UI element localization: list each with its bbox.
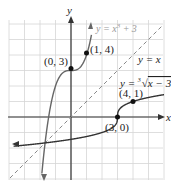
label-0-3: (0, 3) — [44, 55, 68, 68]
cube-root-equation: y = 3√x − 3 — [119, 77, 171, 89]
y-axis-label: y — [66, 4, 72, 16]
point-3-0 — [115, 115, 120, 120]
identity-equation: y = x — [137, 53, 161, 65]
label-3-0: (3, 0) — [105, 121, 129, 134]
cube-root-curve — [14, 95, 164, 147]
cubic-down-arrow-icon — [41, 174, 47, 181]
label-1-4: (1, 4) — [90, 43, 114, 56]
point-4-1 — [131, 99, 136, 104]
point-1-4 — [84, 51, 89, 56]
cubic-arrow-icon — [88, 22, 93, 29]
x-axis-label: x — [165, 111, 171, 123]
point-0-3 — [69, 66, 74, 71]
graph: x y (0, 3) (1, 4) (4, 1) (3, 0) y = x3 +… — [0, 0, 171, 188]
cubic-equation: y = x3 + 3 — [95, 22, 137, 34]
y-axis-arrow-icon — [68, 16, 74, 23]
